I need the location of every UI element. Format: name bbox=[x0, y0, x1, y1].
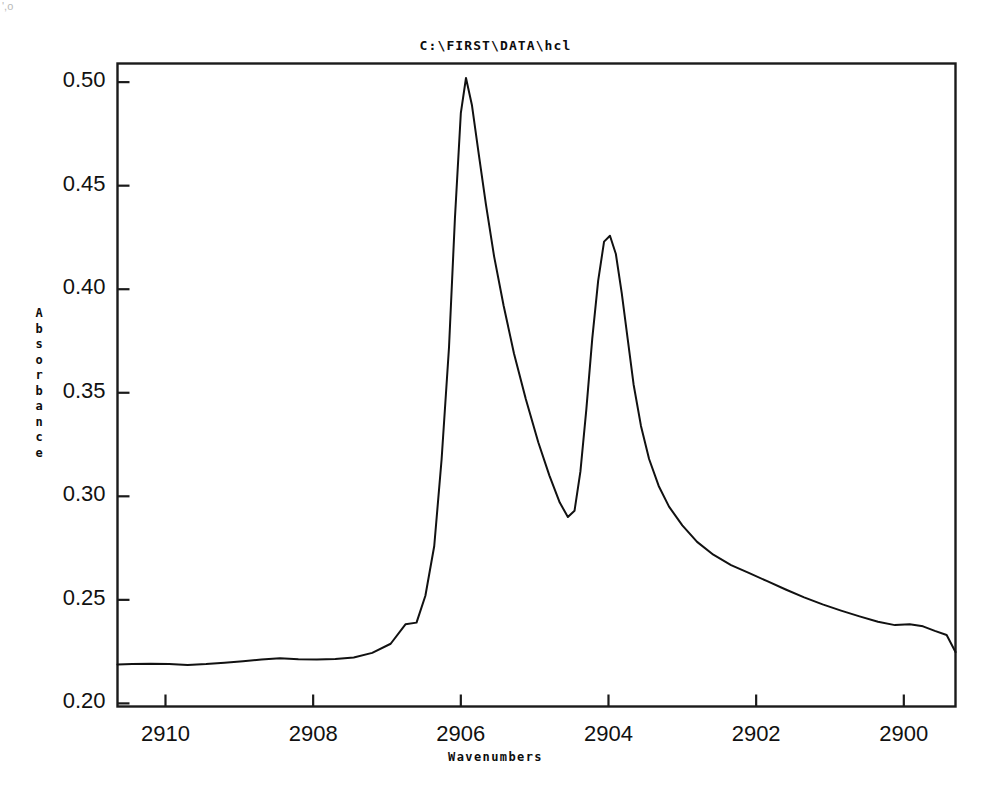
page-title: C:\FIRST\DATA\hcl bbox=[0, 38, 991, 53]
x-tick-label: 2904 bbox=[563, 721, 653, 747]
y-axis-title-char: A bbox=[28, 306, 50, 322]
y-axis-title-char: n bbox=[28, 415, 50, 431]
y-tick-label: 0.40 bbox=[38, 274, 106, 300]
x-tick-label: 2900 bbox=[859, 721, 949, 747]
spectrum-line bbox=[118, 78, 956, 665]
scan-artifact: ',o bbox=[2, 0, 13, 12]
y-tick-label: 0.35 bbox=[38, 378, 106, 404]
y-tick-label: 0.20 bbox=[38, 688, 106, 714]
x-axis-title: Wavenumbers bbox=[0, 750, 991, 764]
y-tick-label: 0.50 bbox=[38, 67, 106, 93]
x-tick-label: 2910 bbox=[120, 721, 210, 747]
x-tick-label: 2902 bbox=[711, 721, 801, 747]
spectrum-figure: ',o C:\FIRST\DATA\hcl A b s o r b a n c … bbox=[0, 0, 991, 793]
y-axis-title-char: o bbox=[28, 353, 50, 369]
plot-frame bbox=[118, 64, 956, 707]
x-tick-label: 2908 bbox=[268, 721, 358, 747]
tick-marks bbox=[118, 82, 904, 706]
y-tick-label: 0.25 bbox=[38, 585, 106, 611]
plot-area bbox=[0, 0, 991, 793]
y-tick-label: 0.45 bbox=[38, 171, 106, 197]
y-tick-label: 0.30 bbox=[38, 481, 106, 507]
y-axis-title-char: e bbox=[28, 446, 50, 462]
x-tick-label: 2906 bbox=[416, 721, 506, 747]
y-axis-title-char: b bbox=[28, 322, 50, 338]
y-axis-title-char: c bbox=[28, 430, 50, 446]
y-axis-title-char: s bbox=[28, 337, 50, 353]
